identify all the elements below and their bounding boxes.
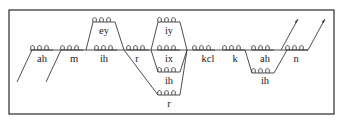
arc-r-ih bbox=[151, 50, 158, 72]
arc-m-ey bbox=[86, 22, 93, 50]
exit-arrowhead-2 bbox=[322, 19, 326, 23]
arc-r-iy bbox=[151, 22, 158, 50]
state-m: m bbox=[61, 46, 83, 65]
pronunciation-network-diagram: ah m ih ey r iy ix ih r kcl k ah ih n bbox=[0, 0, 344, 123]
svg-text:ix: ix bbox=[165, 53, 174, 64]
state-ih: ih bbox=[95, 46, 117, 65]
arc-ih-n bbox=[274, 50, 287, 73]
exit-arrowhead-1 bbox=[295, 19, 299, 23]
arc-iy-kcl bbox=[180, 22, 187, 50]
state-ah: ah bbox=[31, 46, 53, 65]
exit-arc-2 bbox=[308, 19, 325, 50]
svg-text:kcl: kcl bbox=[202, 53, 215, 64]
arc-ih-kcl bbox=[180, 50, 187, 72]
state-iy: iy bbox=[158, 18, 180, 37]
state-kcl: kcl bbox=[193, 46, 215, 65]
state-k: k bbox=[223, 46, 245, 65]
state-n: n bbox=[286, 46, 308, 65]
svg-text:r: r bbox=[135, 53, 139, 64]
entry-arc-2 bbox=[46, 50, 61, 82]
state-ih-alt: ih bbox=[158, 68, 180, 87]
state-r-alt: r bbox=[158, 91, 180, 110]
svg-text:ah: ah bbox=[260, 53, 271, 64]
svg-text:ih: ih bbox=[261, 75, 270, 86]
svg-text:ah: ah bbox=[37, 53, 48, 64]
state-r: r bbox=[127, 46, 149, 65]
state-ah-2: ah bbox=[252, 46, 274, 65]
svg-text:m: m bbox=[70, 53, 78, 64]
svg-text:ih: ih bbox=[100, 53, 109, 64]
state-ix: ix bbox=[158, 46, 180, 65]
svg-text:iy: iy bbox=[165, 25, 174, 36]
arc-k-ih bbox=[245, 50, 252, 73]
entry-arc-1 bbox=[17, 50, 32, 82]
arc-ey-r bbox=[115, 22, 124, 50]
arc-ralt-kcl bbox=[180, 50, 187, 95]
state-ih-3: ih bbox=[252, 69, 274, 87]
svg-text:k: k bbox=[232, 53, 238, 64]
svg-text:ih: ih bbox=[165, 75, 174, 86]
state-ey: ey bbox=[93, 18, 115, 37]
svg-text:n: n bbox=[293, 53, 299, 64]
svg-text:r: r bbox=[167, 98, 171, 109]
svg-text:ey: ey bbox=[99, 25, 110, 36]
